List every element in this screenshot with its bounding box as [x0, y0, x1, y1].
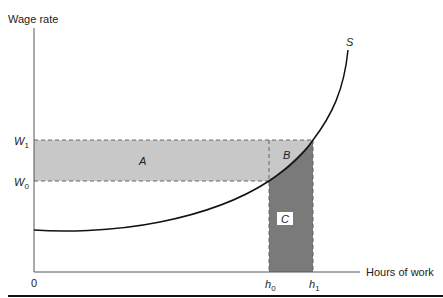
curve-label-s: S	[346, 36, 354, 48]
w1-label: W1	[14, 135, 29, 150]
region-b-label: B	[283, 149, 290, 161]
y-axis-label: Wage rate	[8, 13, 58, 25]
w0-label: W0	[14, 176, 29, 191]
region-c-label: C	[281, 213, 289, 225]
h1-label: h1	[309, 278, 320, 293]
h0-label: h0	[265, 278, 276, 293]
region-a	[34, 140, 269, 181]
region-a-label: A	[138, 155, 146, 167]
x-axis-label: Hours of work	[366, 266, 434, 278]
labour-supply-diagram: Wage rate Hours of work 0 S W1 W0 h0 h1 …	[0, 0, 443, 298]
origin-label: 0	[31, 277, 37, 289]
